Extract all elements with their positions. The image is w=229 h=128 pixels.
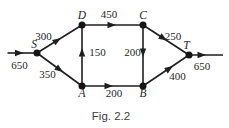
figure-caption: Fig. 2.2 bbox=[92, 110, 130, 122]
edge-label-a-d: 150 bbox=[89, 46, 106, 58]
node-d-label: D bbox=[77, 9, 87, 21]
edge-label-t-out: 650 bbox=[194, 60, 211, 72]
network-flow-diagram: S D C T A B 650 300 350 450 150 200 200 … bbox=[0, 0, 229, 128]
network-flow-figure: S D C T A B 650 300 350 450 150 200 200 … bbox=[0, 0, 229, 128]
edge-label-in-s: 650 bbox=[11, 59, 28, 71]
edge-label-d-c: 450 bbox=[101, 8, 118, 20]
arrowhead-in-s-icon bbox=[15, 50, 24, 56]
node-s-dot bbox=[34, 50, 41, 57]
arrowhead-d-c-icon bbox=[108, 22, 117, 28]
arrowhead-a-d-icon bbox=[79, 48, 85, 57]
arrowhead-t-out-icon bbox=[198, 52, 207, 58]
node-c-dot bbox=[140, 22, 147, 29]
arrowhead-s-d-icon bbox=[52, 35, 63, 45]
edge-label-s-a: 350 bbox=[39, 68, 56, 80]
node-d-dot bbox=[79, 22, 86, 29]
node-t-label: T bbox=[183, 39, 191, 51]
edge-label-c-b: 200 bbox=[124, 46, 141, 58]
edge-label-c-t: 250 bbox=[165, 30, 182, 42]
node-b-label: B bbox=[139, 87, 146, 99]
edge-label-a-b: 200 bbox=[106, 87, 123, 99]
node-t-dot bbox=[186, 52, 193, 59]
edge-label-s-d: 300 bbox=[35, 30, 52, 42]
arrowhead-c-b-icon bbox=[140, 49, 146, 58]
node-a-label: A bbox=[77, 87, 86, 99]
node-c-label: C bbox=[139, 9, 147, 21]
edge-label-b-t: 400 bbox=[169, 70, 186, 82]
